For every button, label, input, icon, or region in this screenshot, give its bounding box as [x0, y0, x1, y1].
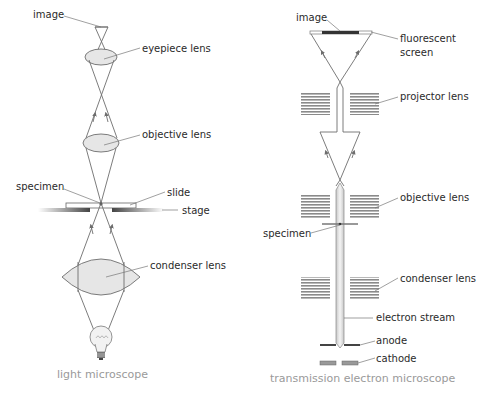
light-bulb-icon	[90, 326, 112, 360]
label-stage: stage	[182, 205, 210, 216]
cathode-left	[320, 361, 336, 365]
label-light-specimen: specimen	[16, 181, 64, 192]
fluorescent-screen	[310, 31, 372, 34]
anode-right	[344, 344, 360, 346]
projector-coil-right	[350, 92, 379, 115]
label-light-objective-lens: objective lens	[142, 129, 211, 140]
condenser-coil-right	[350, 277, 379, 300]
objective-coil-left	[301, 195, 330, 218]
caption-light-microscope: light microscope	[57, 368, 148, 381]
label-cathode: cathode	[376, 353, 417, 364]
label-tem-image: image	[296, 12, 327, 23]
label-anode: anode	[376, 335, 407, 346]
condenser-lens	[62, 259, 140, 295]
microscope-comparison-diagram: image eyepiece lens objective lens speci…	[0, 0, 480, 394]
cathode-right	[342, 361, 358, 365]
stage-left	[38, 208, 90, 212]
anode-left	[320, 344, 336, 346]
stage-right	[112, 208, 164, 212]
caption-tem: transmission electron microscope	[270, 372, 456, 385]
label-fluorescent: fluorescent	[400, 33, 456, 44]
label-electron-stream: electron stream	[376, 312, 455, 323]
condenser-coil-left	[301, 277, 330, 300]
label-slide: slide	[167, 187, 190, 198]
label-eyepiece-lens: eyepiece lens	[142, 43, 211, 54]
objective-lens	[83, 134, 119, 152]
label-screen: screen	[400, 47, 433, 58]
label-tem-objective-lens: objective lens	[400, 192, 469, 203]
label-light-condenser-lens: condenser lens	[150, 260, 226, 271]
label-tem-condenser-lens: condenser lens	[400, 273, 476, 284]
light-microscope: image eyepiece lens objective lens speci…	[16, 9, 226, 381]
label-projector-lens: projector lens	[400, 91, 469, 102]
electron-stream	[336, 183, 344, 348]
label-tem-specimen: specimen	[263, 228, 311, 239]
transmission-electron-microscope: image fluorescent screen projector lens …	[263, 12, 476, 385]
projector-coil-left	[301, 92, 330, 115]
label-light-image: image	[33, 9, 64, 20]
objective-coil-right	[350, 195, 379, 218]
